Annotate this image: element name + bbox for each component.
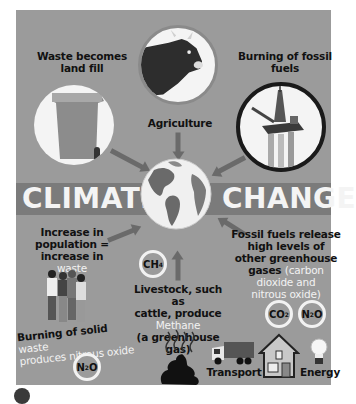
population-text: Increase in population = increase in was…: [22, 226, 122, 274]
carbon-highlight: (carbon: [285, 264, 324, 276]
dioxide-highlight: dioxide and: [230, 276, 342, 288]
energy-label: Energy: [298, 366, 342, 378]
emissions-line-1: Fossil fuels release: [230, 228, 342, 240]
dung: [158, 330, 202, 385]
livestock-line-1: Livestock, such as: [128, 283, 228, 307]
globe-icon: [140, 158, 212, 230]
page-marker: [14, 388, 30, 404]
livestock-line-2: cattle, produce: [128, 307, 228, 319]
oil-rig-icon: [240, 86, 322, 168]
dung-icon: [158, 330, 202, 385]
emissions-line-4: gases: [248, 264, 281, 276]
nitrous-highlight: nitrous oxide): [230, 288, 342, 300]
house-icon: [258, 333, 300, 379]
globe: [140, 158, 212, 230]
gas-badge-n2o-left: N2O: [73, 353, 101, 381]
wheelie-bin-icon: [34, 85, 114, 165]
emissions-line-2: high levels of: [230, 240, 342, 252]
emissions-text: Fossil fuels release high levels of othe…: [230, 228, 342, 300]
energy: [310, 338, 328, 366]
arrow-livestock-to-globe: [176, 257, 181, 281]
gas-badge-n2o-right: N2O: [298, 300, 326, 328]
truck-icon: [210, 340, 256, 366]
population-line-2: population =: [22, 238, 122, 250]
title-change: CHANGE: [222, 181, 356, 217]
waste-label: Waste becomes land fill: [32, 50, 132, 74]
cow-icon: [141, 28, 215, 102]
emissions-line-3: other greenhouse: [230, 252, 342, 264]
fossil-fuels-circle: [236, 82, 326, 172]
agriculture-circle: [138, 25, 218, 105]
light-bulb-icon: [310, 338, 328, 366]
agriculture-label: Agriculture: [130, 117, 230, 129]
gas-badge-ch4: CH4: [139, 250, 167, 278]
transport: [210, 340, 256, 366]
population-line-3: increase in: [22, 250, 122, 262]
gas-badge-co2: CO2: [265, 300, 293, 328]
fossil-fuels-label: Burning of fossil fuels: [230, 50, 340, 74]
house: [258, 333, 300, 379]
crowd-icon: [44, 268, 88, 324]
population-line-1: Increase in: [22, 226, 122, 238]
crowd: [44, 268, 88, 324]
waste-circle: [34, 85, 114, 165]
transport-label: Transport: [206, 366, 262, 378]
arrow-agriculture-to-globe: [176, 133, 181, 155]
